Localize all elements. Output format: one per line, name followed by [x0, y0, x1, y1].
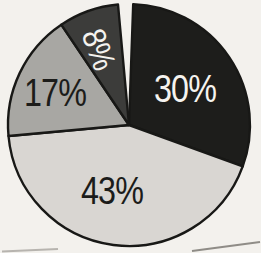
- scan-smudge-bottom-right: [192, 242, 260, 251]
- pie-chart-figure: 30% 43% 17% 8%: [0, 0, 261, 253]
- slice-label-17-percent: 17%: [24, 74, 86, 112]
- pie-chart: [0, 0, 261, 253]
- slice-label-30-percent: 30%: [154, 70, 216, 108]
- slice-label-43-percent: 43%: [81, 172, 143, 210]
- scan-smudge-bottom-left: [2, 249, 58, 252]
